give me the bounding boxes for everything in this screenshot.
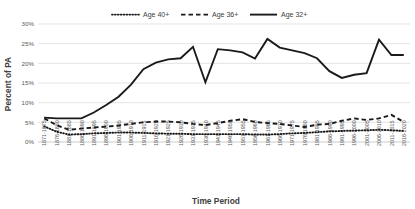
legend-label[interactable]: Age 40+ <box>143 11 169 19</box>
x-tick-label: 2016-2020 <box>401 120 407 146</box>
y-tick-label: 25% <box>22 40 35 47</box>
x-tick-label: 1881-1885 <box>66 120 72 146</box>
y-tick-label: 15% <box>22 79 35 86</box>
x-tick-label: 2006-2010 <box>376 120 382 146</box>
y-tick-label: 0% <box>25 138 34 145</box>
y-tick-label: 10% <box>22 99 35 106</box>
legend-label[interactable]: Age 36+ <box>212 11 238 19</box>
x-tick-label: 2001-2005 <box>364 120 370 146</box>
x-tick-label: 1951-1955 <box>240 120 246 146</box>
legend: Age 40+Age 36+Age 32+ <box>112 11 307 19</box>
legend-label[interactable]: Age 32+ <box>281 11 307 19</box>
x-tick-label: 1956-1960 <box>252 120 258 146</box>
series-line-age-32 <box>44 39 404 118</box>
y-axis-tick-labels: 0%5%10%15%20%25%30% <box>22 20 35 145</box>
y-axis-title: Percent of PA <box>3 57 13 111</box>
x-tick-label: 1946-1950 <box>227 120 233 146</box>
chart-container: 0%5%10%15%20%25%30% 1871-18751876-188018… <box>0 0 415 209</box>
x-tick-label: 1996-2000 <box>351 120 357 146</box>
y-tick-label: 20% <box>22 60 35 67</box>
y-tick-label: 30% <box>22 20 35 27</box>
data-series-group <box>44 39 404 135</box>
x-tick-label: 1991-1995 <box>339 120 345 146</box>
x-tick-label: 2011-2015 <box>389 121 395 146</box>
x-axis-title: Time Period <box>192 196 240 206</box>
y-tick-label: 5% <box>25 119 34 126</box>
line-chart: 0%5%10%15%20%25%30% 1871-18751876-188018… <box>0 0 415 209</box>
x-tick-label: 1871-1875 <box>41 120 47 146</box>
